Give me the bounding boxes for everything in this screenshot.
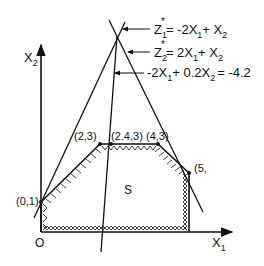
vertex-markers — [39, 142, 191, 204]
x1-axis-label: X1 — [212, 235, 226, 253]
vertex-label-4-3: (4,3) — [146, 130, 169, 142]
vertex-label-2-4-3: (2.4,3) — [111, 130, 143, 142]
equation-z1: Z1*= -2X1+ X2 — [154, 16, 227, 40]
region-label-s: S — [124, 183, 132, 197]
origin-label: O — [35, 236, 44, 250]
feasible-region-boundary — [41, 144, 189, 232]
vertex-label-2-3: (2,3) — [74, 130, 97, 142]
vertex-label-5-1: (5, — [194, 162, 207, 174]
x2-axis-label: X2 — [24, 50, 38, 68]
equation-z2: Z2*= 2X1+ X2 — [154, 39, 223, 63]
callout-arrows — [115, 29, 150, 73]
vertex-label-0-1: (0,1) — [16, 195, 39, 207]
equation-constraint: -2X1+ 0.2X2= -4.2 — [147, 65, 251, 83]
lp-diagram: Z1*= -2X1+ X2 Z2*= 2X1+ X2 -2X1+ 0.2X2= … — [0, 0, 264, 266]
